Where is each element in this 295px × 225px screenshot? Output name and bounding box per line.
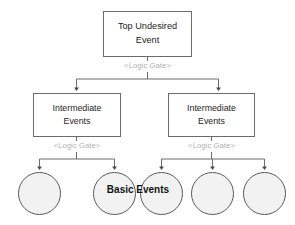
intermediate-events-box-right: Intermediate Events: [168, 93, 255, 137]
intermediate-left-line1: Intermediate: [53, 102, 102, 115]
basic-event-circle: [191, 172, 234, 215]
top-event-line1: Top Undesired: [118, 20, 177, 34]
basic-event-circle: [18, 172, 61, 215]
top-undesired-event-box: Top Undesired Event: [103, 11, 192, 57]
intermediate-events-box-left: Intermediate Events: [33, 93, 121, 137]
basic-events-label: Basic Events: [96, 184, 180, 195]
top-event-line2: Event: [136, 34, 160, 48]
basic-event-circle: [243, 172, 286, 215]
intermediate-right-line1: Intermediate: [187, 102, 236, 115]
logic-gate-label-top: <Logic Gate>: [103, 61, 192, 70]
logic-gate-label-left: <Logic Gate>: [33, 141, 121, 150]
logic-gate-label-right: <Logic Gate>: [168, 141, 255, 150]
fault-tree-diagram: Top Undesired Event <Logic Gate> Interme…: [0, 0, 295, 225]
intermediate-right-line2: Events: [198, 115, 225, 128]
intermediate-left-line2: Events: [64, 115, 91, 128]
